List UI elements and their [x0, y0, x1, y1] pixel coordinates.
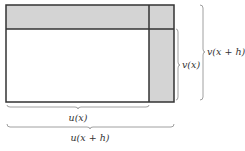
brace-u-x — [7, 105, 149, 109]
brace-v-x — [176, 29, 180, 100]
brace-u-x-plus-h — [7, 124, 174, 129]
right-shaded-strip — [149, 5, 174, 102]
label-v-x-plus-h: v(x + h) — [207, 46, 245, 57]
label-u-x-plus-h: u(x + h) — [70, 132, 109, 143]
product-rule-diagram: v(x) v(x + h) u(x) u(x + h) — [0, 0, 245, 151]
brace-v-x-plus-h — [200, 5, 205, 100]
label-v-x: v(x) — [182, 59, 200, 70]
main-rectangle-uv — [7, 29, 149, 101]
label-u-x: u(x) — [69, 112, 88, 123]
